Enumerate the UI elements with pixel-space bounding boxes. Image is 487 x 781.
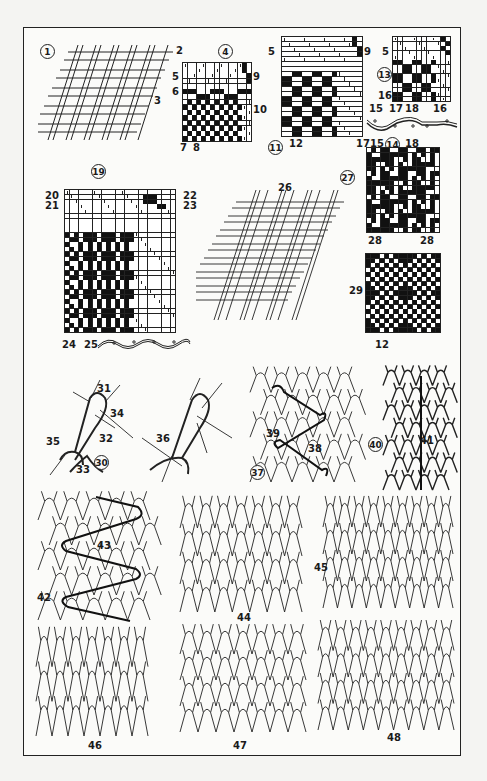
figure-number-11: 11 xyxy=(268,140,283,155)
figure-label-44: 44 xyxy=(237,613,251,623)
callout-35: 35 xyxy=(46,437,60,447)
callout-24: 24 xyxy=(62,340,76,350)
figure-number-4: 4 xyxy=(218,44,233,59)
callout-16: 16 xyxy=(378,91,392,101)
figure-label-45: 45 xyxy=(314,563,328,573)
callout-8: 8 xyxy=(193,143,200,153)
figure-number-27: 27 xyxy=(340,170,355,185)
callout-32: 32 xyxy=(99,434,113,444)
knit-fabric-drawing-40 xyxy=(383,368,451,493)
weave-notation-13 xyxy=(392,36,451,102)
weave-notation-11 xyxy=(281,36,363,137)
cross-section-14 xyxy=(367,114,457,136)
figure-number-40: 40 xyxy=(368,437,383,452)
figure-number-30: 30 xyxy=(94,455,109,470)
callout-28: 28 xyxy=(368,236,382,246)
callout-7: 7 xyxy=(180,143,187,153)
callout-41: 41 xyxy=(420,436,434,446)
callout-21: 21 xyxy=(45,201,59,211)
callout-23: 23 xyxy=(183,201,197,211)
figure-label-46: 46 xyxy=(88,741,102,751)
callout-28: 28 xyxy=(420,236,434,246)
callout-2: 2 xyxy=(176,46,183,56)
weave-notation-19 xyxy=(64,189,176,333)
callout-12: 12 xyxy=(289,139,303,149)
knit-fabric-drawing-47 xyxy=(180,628,308,738)
knit-fabric-drawing-42 xyxy=(38,495,153,625)
figure-label-42: 42 xyxy=(37,593,51,603)
callout-16: 16 xyxy=(433,104,447,114)
woven-fabric-drawing-26 xyxy=(196,190,346,325)
callout-39: 39 xyxy=(266,429,280,439)
figure-number-13: 13 xyxy=(377,67,392,82)
wave-cross-section-25 xyxy=(98,336,190,350)
callout-25: 25 xyxy=(84,340,98,350)
figure-number-19: 19 xyxy=(91,164,106,179)
callout-5: 5 xyxy=(268,47,275,57)
callout-38: 38 xyxy=(308,444,322,454)
knit-fabric-drawing-46 xyxy=(36,632,151,742)
callout-5: 5 xyxy=(382,47,389,57)
callout-34: 34 xyxy=(110,409,124,419)
callout-12: 12 xyxy=(375,340,389,350)
knit-loop-drawing-36 xyxy=(142,378,222,482)
callout-15: 15 xyxy=(369,104,383,114)
callout-33: 33 xyxy=(76,465,90,475)
figure-label-29: 29 xyxy=(349,286,363,296)
callout-5: 5 xyxy=(172,72,179,82)
figure-label-36: 36 xyxy=(156,434,170,444)
callout-6: 6 xyxy=(172,87,179,97)
weave-notation-29 xyxy=(365,253,441,333)
weave-notation-4 xyxy=(182,62,252,142)
callout-9: 9 xyxy=(364,47,371,57)
callout-17: 17 xyxy=(389,104,403,114)
figure-label-47: 47 xyxy=(233,741,247,751)
callout-9: 9 xyxy=(253,72,260,82)
callout-10: 10 xyxy=(253,105,267,115)
callout-43: 43 xyxy=(97,541,111,551)
callout-31: 31 xyxy=(97,384,111,394)
knit-fabric-drawing-48 xyxy=(318,624,456,736)
figure-number-37: 37 xyxy=(250,465,265,480)
figure-label-48: 48 xyxy=(387,733,401,743)
knit-fabric-drawing-45 xyxy=(323,500,455,612)
callout-18: 18 xyxy=(405,104,419,114)
callout-3: 3 xyxy=(154,96,161,106)
knit-fabric-drawing-44 xyxy=(180,500,305,618)
weave-notation-27 xyxy=(366,147,440,233)
